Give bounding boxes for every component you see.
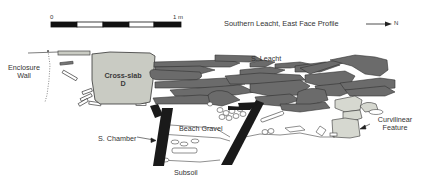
figure-title: Southern Leacht, East Face Profile (224, 20, 339, 28)
scale-bar (51, 22, 181, 27)
scale-end-label: 1 m (173, 13, 183, 21)
north-arrow-icon (366, 22, 392, 27)
scale-start-label: 0 (50, 13, 53, 21)
profile-drawing (0, 0, 428, 184)
s-leacht-label: S. Leacht (251, 55, 281, 63)
s-chamber-label: S. Chamber (98, 135, 136, 143)
beach-gravel-label: Beach Gravel (179, 125, 223, 133)
subsoil-label: Subsoil (174, 169, 198, 177)
enclosure-wall-label: Enclosure Wall (6, 64, 42, 80)
cross-slab-label: Cross-slab D (100, 72, 146, 88)
chamber-slabs (150, 100, 264, 166)
north-label: N (394, 19, 398, 27)
enclosure-wall-line (45, 51, 50, 102)
profile-diagram: 0 1 m Southern Leacht, East Face Profile… (0, 0, 428, 184)
curvilinear-feature-label: Curvilinear Feature (372, 116, 418, 132)
